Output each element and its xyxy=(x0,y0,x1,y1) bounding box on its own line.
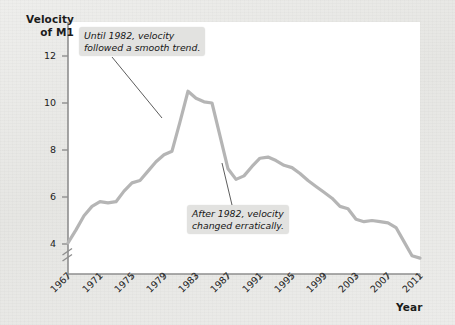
callout-2-line-2: changed erratically. xyxy=(192,220,284,232)
y-tick-label-10: 10 xyxy=(34,97,56,108)
x-axis-title: Year xyxy=(396,301,422,314)
chart-figure: Velocity of M1 Year 12 10 8 6 4 1967 197… xyxy=(0,0,455,325)
annotation-callout-smooth-trend: Until 1982, velocity followed a smooth t… xyxy=(79,27,205,56)
y-axis-title-line-2: of M1 xyxy=(12,26,74,39)
callout-1-line-2: followed a smooth trend. xyxy=(84,42,200,54)
plot-area-background xyxy=(68,22,420,274)
y-tick-marks xyxy=(62,56,68,244)
y-axis-title-line-1: Velocity xyxy=(26,13,74,25)
callout-1-line-1: Until 1982, velocity xyxy=(84,30,200,42)
y-tick-label-6: 6 xyxy=(34,191,56,202)
y-tick-label-8: 8 xyxy=(34,144,56,155)
y-tick-label-4: 4 xyxy=(34,238,56,249)
y-axis-title: Velocity of M1 xyxy=(12,13,74,38)
callout-2-line-1: After 1982, velocity xyxy=(192,208,284,220)
y-tick-label-12: 12 xyxy=(34,50,56,61)
annotation-callout-erratic: After 1982, velocity changed erratically… xyxy=(187,205,289,234)
